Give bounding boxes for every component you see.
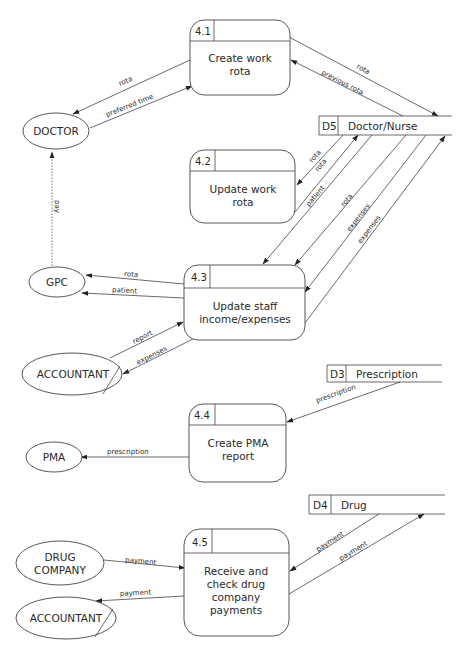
entity-label: ACCOUNTANT (30, 612, 103, 624)
entity-drug-company[interactable]: DRUG COMPANY (16, 541, 104, 585)
data-store-d3[interactable]: D3 Prescription (327, 365, 442, 382)
process-title: company (212, 591, 260, 603)
process-4-2[interactable]: 4.2 Update work rota (190, 150, 295, 223)
flow-label: previous rota (320, 69, 365, 97)
process-title: rota (229, 65, 250, 77)
flow-label: pay (53, 200, 61, 213)
flow-accountant-to-4-3-report (110, 322, 183, 358)
flow-label: rota (355, 63, 371, 77)
process-4-4[interactable]: 4.4 Create PMA report (189, 404, 286, 482)
process-title: income/expenses (199, 313, 291, 325)
entity-label: ACCOUNTANT (37, 368, 110, 380)
process-id: 4.1 (195, 26, 211, 37)
flow-label: report (131, 329, 154, 346)
entity-gpc[interactable]: GPC (29, 267, 85, 297)
process-4-1[interactable]: 4.1 Create work rota (190, 20, 290, 95)
flow-label: prescription (315, 383, 357, 405)
process-title: Create PMA (208, 437, 270, 449)
flow-label: rota (339, 192, 354, 208)
data-store-d5[interactable]: D5 Doctor/Nurse (319, 116, 452, 135)
process-id: 4.3 (191, 272, 207, 283)
flow-label: rota (118, 75, 134, 88)
process-title: Create work (208, 52, 273, 64)
process-title: rota (232, 196, 253, 208)
flow-4-1-to-d5-rota (289, 37, 438, 116)
process-title: check drug (207, 578, 265, 590)
process-4-3[interactable]: 4.3 Update staff income/expenses (184, 265, 305, 340)
process-title: Update work (210, 183, 278, 195)
process-id: 4.5 (192, 537, 208, 548)
process-title: payments (210, 604, 262, 616)
process-title: Update staff (213, 300, 278, 312)
data-flow-diagram: rota preferred time rota previous rota p… (0, 0, 466, 658)
process-id: 4.4 (194, 410, 210, 421)
flow-label: expenses (135, 344, 168, 366)
process-id: 4.2 (195, 156, 211, 167)
flow-label: preferred time (105, 93, 155, 119)
flow-label: payment (338, 540, 369, 563)
store-name: Doctor/Nurse (348, 120, 417, 132)
flow-label: rota (124, 270, 139, 279)
store-name: Drug (341, 499, 367, 511)
store-id: D3 (330, 368, 345, 380)
process-title: report (222, 450, 254, 462)
entity-label: PMA (43, 451, 66, 463)
flow-label: prescription (107, 448, 149, 456)
flow-doctor-to-4-1-preferred-time (90, 86, 192, 128)
entity-pma[interactable]: PMA (26, 442, 82, 472)
flow-label: payment (125, 556, 157, 567)
entity-label: DOCTOR (33, 125, 79, 137)
store-id: D4 (313, 499, 328, 511)
flow-label: payment (315, 530, 346, 554)
entity-accountant-1[interactable]: ACCOUNTANT (22, 353, 122, 395)
process-4-5[interactable]: 4.5 Receive and check drug company payme… (184, 529, 289, 636)
entity-label: COMPANY (34, 564, 86, 576)
data-store-d4[interactable]: D4 Drug (309, 495, 445, 514)
entity-label: DRUG (44, 551, 75, 563)
entity-label: GPC (46, 276, 68, 288)
store-name: Prescription (356, 368, 418, 380)
entity-doctor[interactable]: DOCTOR (23, 113, 89, 149)
flow-label: payment (120, 588, 152, 598)
store-id: D5 (322, 120, 337, 132)
process-title: Receive and (204, 565, 268, 577)
flow-label: patient (112, 286, 138, 295)
entity-accountant-2[interactable]: ACCOUNTANT (16, 597, 116, 639)
